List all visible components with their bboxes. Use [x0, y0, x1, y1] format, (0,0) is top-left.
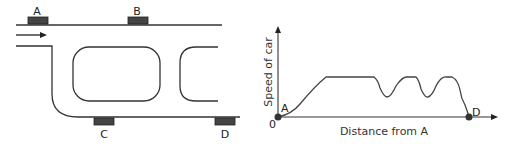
y-axis-arrow-icon [275, 26, 281, 33]
sensor-d [215, 118, 235, 125]
sensor-a [28, 17, 48, 24]
point-d-label: D [472, 106, 480, 119]
x-axis-label: Distance from A [340, 125, 429, 138]
sensor-c [94, 118, 114, 125]
diagram-canvas: A B C D A D 0 Distance from A Speed of c… [0, 0, 506, 151]
island-partial [180, 47, 218, 101]
origin-label: 0 [269, 118, 276, 131]
sensor-c-label: C [100, 128, 108, 141]
sensor-b-label: B [133, 5, 141, 18]
sensor-b [128, 17, 148, 24]
point-a-label: A [281, 102, 289, 115]
sensors [28, 17, 235, 125]
sensor-a-label: A [33, 5, 41, 18]
roundabout-island [73, 47, 160, 101]
sensor-d-label: D [221, 128, 229, 141]
speed-graph: A D 0 Distance from A Speed of car [262, 26, 498, 138]
road-diagram [16, 25, 240, 117]
arrow-right-icon [16, 32, 47, 38]
x-axis-arrow-icon [491, 114, 498, 120]
y-axis-label: Speed of car [262, 37, 275, 107]
road-bottom-edge [16, 46, 240, 117]
speed-curve [278, 77, 469, 117]
